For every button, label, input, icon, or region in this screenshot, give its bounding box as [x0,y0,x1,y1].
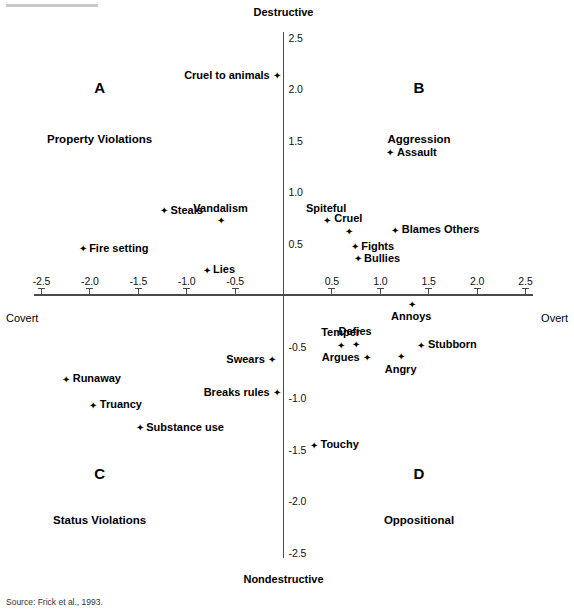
y-tick-label: 0.5 [289,238,303,250]
y-tick-label: 2.5 [289,32,303,44]
data-point-marker [363,354,370,361]
data-point-marker [408,301,415,308]
x-tick-label: -0.5 [226,275,244,287]
quadrant-name-c: Status Violations [53,514,146,526]
x-tick-cap [183,288,190,289]
data-point-marker [273,389,280,396]
data-point-label-text: Vandalism [193,202,247,214]
data-point-marker [217,217,224,224]
data-point-label-text: Lies [213,263,235,275]
data-point-marker [345,228,352,235]
y-tick-label: 2.0 [289,83,303,95]
y-tick-label: -1.5 [289,444,307,456]
y-tick-label: -1.0 [289,392,307,404]
x-tick-cap [328,288,335,289]
data-point-label-text: Stubborn [428,338,477,350]
x-tick-label: -1.5 [129,275,147,287]
x-tick-cap [135,288,142,289]
data-point-marker [89,402,96,409]
x-tick-cap [38,288,45,289]
quadrant-name-a: Property Violations [47,133,152,145]
y-tick-label: 1.5 [289,135,303,147]
data-point-marker [136,424,143,431]
data-point-marker [417,342,424,349]
quadrant-name-d: Oppositional [384,514,454,526]
data-point-label-text: Truancy [100,398,142,410]
x-tick-label: 0.5 [325,275,339,287]
data-point-marker [337,342,344,349]
data-point-label-text: Fights [361,240,394,252]
data-point-label-text: Runaway [73,372,121,384]
top-rule-decoration [6,4,98,7]
data-point-marker [160,207,167,214]
y-tick-label: -0.5 [289,341,307,353]
scatter-plot-figure: -2.5-2.0-1.5-1.0-0.50.51.01.52.02.52.52.… [0,0,574,613]
x-tick-label: -2.5 [33,275,51,287]
data-point-marker [310,442,317,449]
axis-pole-top: Destructive [254,6,314,18]
data-point-label-text: Touchy [321,438,359,450]
y-tick-label: -2.0 [289,495,307,507]
data-point-marker [391,227,398,234]
data-point-label-text: Assault [397,146,437,158]
x-tick-cap [522,288,529,289]
x-tick-cap [377,288,384,289]
data-point-label-text: Cruel to animals [184,69,270,81]
x-axis-line [34,294,533,296]
data-point-marker [323,217,330,224]
data-point-label-text: Breaks rules [204,386,270,398]
data-point-marker [354,255,361,262]
data-point-marker [203,267,210,274]
data-point-label-text: Defies [339,325,372,337]
x-tick-label: 2.5 [518,275,532,287]
data-point-marker [62,376,69,383]
data-point-marker [273,72,280,79]
quadrant-letter-a: A [94,79,105,96]
x-tick-label: -1.0 [178,275,196,287]
x-tick-label: -2.0 [81,275,99,287]
axis-pole-bottom: Nondestructive [243,573,323,585]
quadrant-letter-b: B [414,79,425,96]
y-tick-label: -2.5 [289,547,307,559]
x-tick-label: 1.0 [373,275,387,287]
data-point-label-text: Substance use [146,421,224,433]
quadrant-letter-d: D [414,465,425,482]
quadrant-name-b: Aggression [387,133,450,145]
axis-pole-right: Overt [541,312,568,324]
data-point-marker [397,353,404,360]
data-point-label-text: Fire setting [89,242,148,254]
data-point-marker [351,243,358,250]
data-point-label-text: Angry [385,363,417,375]
quadrant-letter-c: C [94,465,105,482]
data-point-label-text: Bullies [364,252,400,264]
x-tick-label: 1.5 [422,275,436,287]
data-point-marker [386,149,393,156]
data-point-marker [79,245,86,252]
x-tick-cap [474,288,481,289]
data-point-label-text: Swears [226,353,265,365]
axis-pole-left: Covert [6,312,38,324]
data-point-marker [352,341,359,348]
data-point-label-text: Blames Others [402,223,480,235]
data-point-marker [268,356,275,363]
x-tick-cap [86,288,93,289]
x-tick-label: 2.0 [470,275,484,287]
y-tick-label: 1.0 [289,186,303,198]
x-tick-cap [425,288,432,289]
x-tick-cap [232,288,239,289]
source-note: Source: Frick et al., 1993. [6,597,103,607]
data-point-label-text: Annoys [391,310,431,322]
data-point-label-text: Argues [322,351,360,363]
data-point-label-text: Cruel [334,212,362,224]
